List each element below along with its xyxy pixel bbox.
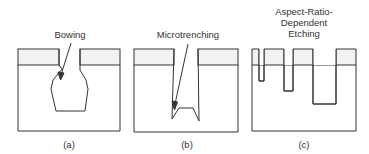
label-bowing: Bowing [40, 29, 100, 40]
label-ard-line1: Aspect-Ratio- [264, 6, 344, 17]
label-ard-line3: Etching [264, 28, 344, 39]
panel-a-bowing [18, 43, 120, 131]
caption-c: (c) [289, 139, 319, 150]
caption-b: (b) [172, 139, 202, 150]
panel-b-microtrenching [134, 44, 238, 132]
caption-a: (a) [54, 139, 84, 150]
panel-c-ard-etching [252, 49, 356, 131]
label-microtrenching: Microtrenching [148, 29, 228, 40]
label-ard-line2: Dependent [264, 17, 344, 28]
label-ard-etching: Aspect-Ratio- Dependent Etching [264, 6, 344, 39]
